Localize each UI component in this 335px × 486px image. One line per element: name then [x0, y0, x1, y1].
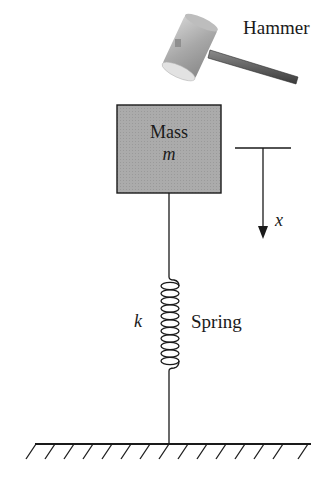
- mass-symbol: m: [145, 144, 193, 165]
- stiffness-symbol: k: [134, 311, 142, 332]
- spring-icon: [161, 273, 179, 374]
- displacement-symbol: x: [275, 210, 283, 231]
- mass-spring-diagram: Hammer Mass m x k Spring: [0, 0, 335, 486]
- hammer-label: Hammer: [243, 17, 309, 39]
- diagram-svg: [0, 0, 335, 486]
- mass-label: Mass: [145, 122, 193, 143]
- spring-label: Spring: [191, 311, 242, 333]
- ground-icon: [26, 444, 311, 459]
